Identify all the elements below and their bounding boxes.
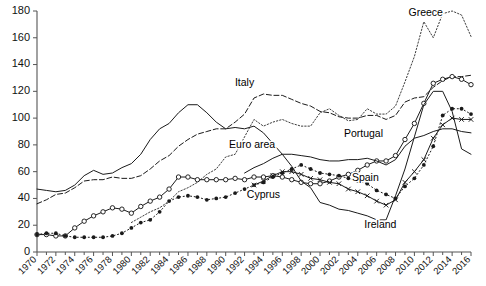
data-point-marker [214,197,218,201]
x-tick-label: 1986 [167,254,190,277]
data-point-marker [54,231,58,235]
data-point-marker [346,176,350,180]
x-tick-label: 1988 [186,254,209,277]
data-point-marker [299,163,303,167]
data-point-marker [384,159,388,163]
series-label-greece: Greece [408,6,443,18]
data-point-marker [73,226,77,230]
data-point-marker [469,112,473,116]
data-point-marker [252,183,256,187]
data-point-marker [261,175,265,179]
data-point-marker [233,191,237,195]
x-tick-label: 1998 [280,254,303,277]
data-point-marker [337,174,341,178]
x-tick-label: 2014 [431,254,454,277]
data-point-marker [384,193,388,197]
data-point-marker [82,235,86,239]
data-point-marker [271,175,275,179]
y-tick-label: 120 [12,84,30,96]
data-point-marker [384,203,389,208]
data-point-marker [431,81,435,85]
x-tick-label: 2000 [299,254,322,277]
data-point-marker [242,178,246,182]
data-point-marker [375,189,379,193]
data-point-marker [290,178,294,182]
data-point-marker [318,182,322,186]
data-point-marker [280,175,284,179]
data-point-marker [431,136,436,141]
x-tick-label: 1990 [204,254,227,277]
x-tick-label: 1976 [72,254,95,277]
series-line [37,109,471,238]
x-tick-label: 2002 [318,254,341,277]
series-label-spain: Spain [352,171,379,183]
x-tick-label: 1980 [110,254,133,277]
data-point-marker [111,234,115,238]
y-tick-label: 60 [18,165,30,177]
data-point-marker [309,167,313,171]
series-label-portugal: Portugal [344,127,383,139]
data-point-marker [233,176,237,180]
data-point-marker [148,199,152,203]
y-tick-label: 100 [12,111,30,123]
data-point-marker [110,206,114,210]
data-point-marker [158,210,162,214]
data-point-marker [129,211,133,215]
data-point-marker [101,235,105,239]
data-point-marker [403,137,407,141]
data-point-marker [167,199,171,203]
data-point-marker [186,175,190,179]
data-point-marker [214,178,218,182]
data-point-marker [139,204,143,208]
data-point-marker [262,180,266,184]
x-tick-label: 1994 [242,254,265,277]
series-label-ireland: Ireland [364,218,396,230]
data-point-marker [441,114,445,118]
x-tick-label: 1996 [261,254,284,277]
data-point-marker [412,176,416,180]
data-point-marker [252,175,256,179]
data-point-marker [186,194,190,198]
data-point-marker [308,182,312,186]
x-tick-label: 1974 [53,254,76,277]
data-point-marker [205,178,209,182]
data-point-marker [35,233,39,237]
y-tick-label: 180 [12,4,30,16]
data-point-marker [101,210,105,214]
data-point-marker [374,199,379,204]
y-tick-label: 40 [18,191,30,203]
data-point-marker [318,171,322,175]
x-tick-label: 2016 [450,254,473,277]
data-point-marker [223,178,227,182]
data-point-marker [346,172,350,176]
debt-ratio-line-chart: 0204060801001201401601801970197219741976… [0,0,486,286]
series-label-italy: Italy [235,76,255,88]
series-ireland [37,91,471,220]
x-tick-label: 1972 [35,254,58,277]
chart-canvas: 0204060801001201401601801970197219741976… [0,0,486,286]
data-point-marker [157,195,161,199]
series-label-euro-area: Euro area [229,138,275,150]
data-point-marker [91,214,95,218]
data-point-marker [440,123,445,128]
x-tick-label: 2006 [355,254,378,277]
data-point-marker [195,195,199,199]
data-point-marker [224,195,228,199]
data-point-marker [431,144,435,148]
data-point-marker [167,187,171,191]
data-point-marker [73,235,77,239]
x-tick-label: 2008 [374,254,397,277]
data-point-marker [412,169,417,174]
data-point-marker [139,221,143,225]
data-point-marker [365,163,369,167]
data-point-marker [450,74,454,78]
y-tick-label: 140 [12,57,30,69]
x-tick-label: 1970 [16,254,39,277]
x-tick-label: 1978 [91,254,114,277]
data-point-marker [205,198,209,202]
data-point-marker [469,82,473,86]
data-point-marker [460,107,464,111]
data-point-marker [412,121,416,125]
data-point-marker [148,218,152,222]
data-point-marker [92,235,96,239]
